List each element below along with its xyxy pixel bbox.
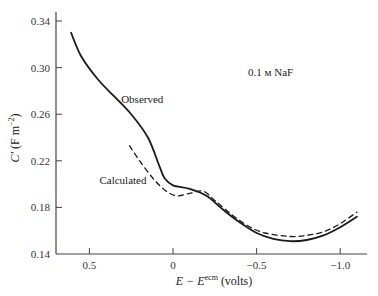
- x-axis-title: E − Eecm(volts): [175, 273, 252, 288]
- labels-layer: ObservedCalculated0.1 м NaF: [99, 66, 293, 186]
- x-tick-label: −0.5: [247, 259, 267, 271]
- capacitance-chart: 0.140.180.220.260.300.34C′ (F m−2) 0.50−…: [0, 0, 378, 296]
- y-tick-label: 0.26: [31, 108, 51, 120]
- x-tick-label: 0.5: [83, 259, 97, 271]
- y-tick-label: 0.22: [31, 155, 50, 167]
- series-observed-label: Observed: [121, 93, 164, 105]
- y-tick-label: 0.18: [31, 201, 51, 213]
- y-axis: 0.140.180.220.260.300.34C′ (F m−2): [7, 12, 62, 260]
- y-axis-title: C′ (F m−2): [7, 113, 22, 162]
- y-tick-label: 0.34: [31, 15, 51, 27]
- series-calculated-label: Calculated: [99, 174, 147, 186]
- y-tick-label: 0.14: [31, 248, 51, 260]
- x-axis: 0.50−0.5−1.0E − Eecm(volts): [56, 248, 367, 288]
- series-observed-line: [71, 33, 357, 242]
- x-tick-label: −1.0: [330, 259, 350, 271]
- electrolyte-annotation: 0.1 м NaF: [248, 66, 293, 78]
- series-calculated-line: [130, 146, 357, 237]
- x-tick-label: 0: [170, 259, 176, 271]
- y-tick-label: 0.30: [31, 62, 51, 74]
- plot-area: [71, 33, 357, 242]
